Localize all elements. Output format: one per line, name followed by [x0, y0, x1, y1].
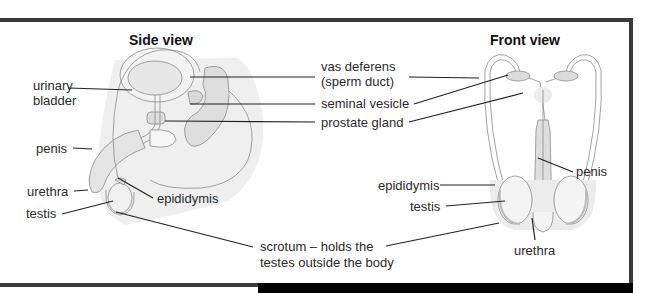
label-side-epididymis: epididymis	[157, 191, 218, 206]
label-seminal-vesicle: seminal vesicle	[321, 96, 409, 111]
label-side-testis: testis	[26, 206, 56, 221]
label-front-epididymis: epididymis	[378, 178, 439, 193]
label-prostate-gland: prostate gland	[321, 115, 403, 130]
label-front-penis: penis	[576, 164, 607, 179]
front-view-illustration	[485, 55, 602, 232]
label-side-penis: penis	[36, 141, 67, 156]
label-side-urethra: urethra	[27, 184, 68, 199]
label-vas-deferens-line1: vas deferens	[321, 59, 395, 74]
front-view-title: Front view	[490, 32, 560, 48]
side-view-title: Side view	[129, 32, 193, 48]
label-front-urethra: urethra	[514, 243, 555, 258]
label-scrotum-line2: testes outside the body	[260, 255, 394, 270]
label-front-testis: testis	[410, 199, 440, 214]
label-urinary-bladder-line2: bladder	[33, 93, 76, 108]
label-vas-deferens-line2: (sperm duct)	[321, 74, 394, 89]
label-scrotum-line1: scrotum – holds the	[260, 239, 373, 254]
label-urinary-bladder-line1: urinary	[33, 78, 73, 93]
